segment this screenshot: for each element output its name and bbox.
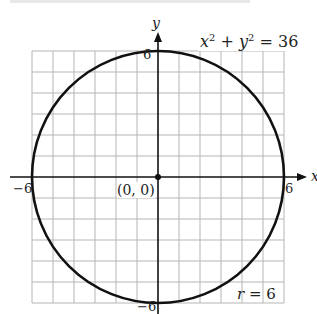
origin-label: (0, 0) xyxy=(117,182,155,198)
y-axis-label: y xyxy=(152,15,160,31)
y-axis-arrow-icon xyxy=(154,32,162,42)
equation-label: x2 + y2 = 36 xyxy=(198,32,300,51)
x-tick-6: 6 xyxy=(285,181,293,196)
y-tick-neg6: −6 xyxy=(137,299,156,314)
x-tick-neg6: −6 xyxy=(13,181,32,196)
y-tick-6: 6 xyxy=(143,47,151,62)
x-axis-label: x xyxy=(311,168,317,184)
radius-label: r = 6 xyxy=(237,285,276,303)
x-axis-arrow-icon xyxy=(297,173,307,181)
cropped-text-remnant xyxy=(10,0,250,3)
origin-point xyxy=(155,174,161,180)
